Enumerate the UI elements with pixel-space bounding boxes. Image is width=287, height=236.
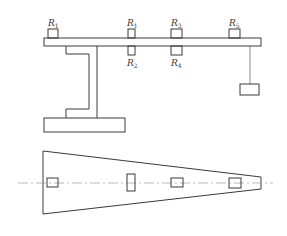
- gauge-labels: R1 R1 R2 R3 R4 R5: [47, 18, 240, 69]
- tapered-beam-outline: [43, 151, 261, 214]
- label-r1-mid: R1: [126, 18, 138, 29]
- load-weight: [240, 84, 259, 95]
- gauge-r1-left: [48, 29, 58, 38]
- plan-gauge-2: [127, 174, 135, 191]
- plan-gauge-3: [171, 178, 183, 187]
- plan-view: [18, 151, 273, 214]
- label-r2: R2: [126, 58, 138, 69]
- label-r4: R4: [170, 58, 182, 69]
- beam: [44, 38, 261, 46]
- label-r1-left: R1: [47, 18, 59, 29]
- elevation-view: [44, 29, 261, 132]
- cantilever-beam-diagram: R1 R1 R2 R3 R4 R5: [0, 0, 287, 236]
- gauge-r4-bottom: [171, 46, 182, 55]
- support-bracket: [66, 46, 89, 118]
- plan-gauge-1: [47, 178, 58, 187]
- gauge-r5-top: [229, 29, 240, 38]
- label-r3: R3: [170, 18, 182, 29]
- gauge-r3-top: [171, 29, 182, 38]
- gauge-r1-top: [128, 29, 135, 38]
- label-r5: R5: [228, 18, 240, 29]
- gauge-r2-bottom: [128, 46, 135, 55]
- base-plate: [44, 118, 125, 132]
